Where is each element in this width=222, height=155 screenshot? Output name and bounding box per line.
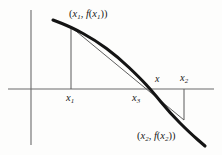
secant-method-figure: (x1, f(x1)) (x2, f(x2)) x1 x3 x x2: [0, 0, 222, 155]
x2-tick-label: x2: [180, 73, 188, 84]
x-root-label: x: [155, 74, 159, 84]
secant-line: [71, 27, 184, 120]
x1-tick-label: x1: [66, 93, 74, 104]
point1-label: (x1, f(x1)): [69, 9, 107, 20]
plot-canvas: [0, 0, 222, 155]
x3-tick-label: x3: [132, 93, 140, 104]
point2-label: (x2, f(x2)): [137, 131, 175, 142]
